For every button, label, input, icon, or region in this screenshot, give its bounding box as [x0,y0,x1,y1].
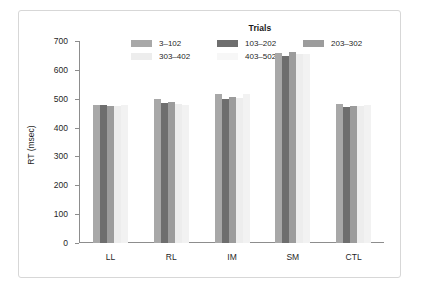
y-axis-tick: 0 [75,243,79,244]
bar[interactable] [175,104,182,243]
bar-groups: LLRLIMSMCTL [80,41,384,243]
y-axis-tick-label: 600 [54,65,68,75]
bar[interactable] [343,107,350,243]
chart-figure: Trials 3–102103–202203–302303–402403–502… [18,10,401,278]
bar[interactable] [182,105,189,243]
bar-group: CTL [336,41,371,243]
bar[interactable] [364,105,371,244]
plot-area: 0100200300400500600700 LLRLIMSMCTL [79,41,384,243]
y-axis-tick-label: 500 [54,94,68,104]
y-axis-tick-label: 200 [54,180,68,190]
y-axis-tick: 400 [75,128,79,129]
bar[interactable] [154,99,161,243]
bar-group: IM [215,41,250,243]
bar[interactable] [336,104,343,243]
bar[interactable] [100,105,107,244]
bar[interactable] [350,106,357,243]
bar[interactable] [303,54,310,243]
bar[interactable] [161,103,168,243]
bar[interactable] [229,97,236,243]
y-axis-tick-label: 100 [54,209,68,219]
bar[interactable] [114,106,121,243]
bar[interactable] [93,105,100,243]
y-axis-tick-label: 300 [54,151,68,161]
bar[interactable] [275,53,282,243]
bar-group: LL [93,41,128,243]
x-axis-tick-label: LL [106,252,115,262]
bar[interactable] [121,105,128,243]
bar-group: SM [275,41,310,243]
bar[interactable] [357,106,364,243]
bar[interactable] [107,106,114,243]
x-axis-tick-label: RL [166,252,177,262]
bar[interactable] [243,94,250,243]
y-axis-tick: 500 [75,99,79,100]
bar[interactable] [282,56,289,243]
x-axis-tick-label: SM [286,252,299,262]
y-axis-title: RT (msec) [26,125,36,164]
bar[interactable] [222,99,229,243]
bar[interactable] [289,52,296,243]
y-axis-tick-label: 700 [54,36,68,46]
legend-title: Trials [131,23,389,33]
bar[interactable] [296,54,303,243]
y-axis-tick-label: 400 [54,123,68,133]
y-axis-tick: 100 [75,214,79,215]
y-axis-tick: 600 [75,70,79,71]
y-axis-tick: 200 [75,185,79,186]
y-axis-tick: 300 [75,156,79,157]
x-axis-tick-label: IM [227,252,236,262]
y-axis-tick: 700 [75,41,79,42]
bar-group: RL [154,41,189,243]
bar[interactable] [215,94,222,243]
bar[interactable] [168,102,175,243]
x-axis-tick-label: CTL [346,252,362,262]
bar[interactable] [236,98,243,243]
y-axis-tick-label: 0 [63,238,68,248]
